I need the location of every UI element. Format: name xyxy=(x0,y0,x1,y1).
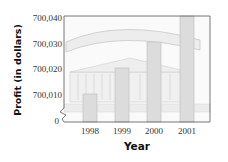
bar-1998 xyxy=(83,94,97,122)
ytick-700010: 700,010 xyxy=(33,90,63,100)
xtick-2000: 2000 xyxy=(145,126,164,136)
xtick-1998: 1998 xyxy=(81,126,100,136)
ytick-700020: 700,020 xyxy=(33,64,63,74)
ytick-700040: 700,040 xyxy=(33,13,63,23)
y-axis-label: Profit (in dollars) xyxy=(12,24,23,116)
ytick-700030: 700,030 xyxy=(33,39,63,49)
bar-2000 xyxy=(147,42,161,122)
bar-2001 xyxy=(180,16,194,122)
xtick-2001: 2001 xyxy=(178,126,196,136)
ytick-0: 0 xyxy=(55,116,60,126)
bar-1999 xyxy=(115,68,129,122)
bar-chart: 700,040 700,030 700,020 700,010 0 1998 1… xyxy=(0,0,228,162)
x-axis-ticks: 1998 1999 2000 2001 xyxy=(81,126,196,136)
x-axis-label: Year xyxy=(123,140,151,152)
xtick-1999: 1999 xyxy=(113,126,132,136)
y-axis-ticks: 700,040 700,030 700,020 700,010 0 xyxy=(33,13,63,126)
